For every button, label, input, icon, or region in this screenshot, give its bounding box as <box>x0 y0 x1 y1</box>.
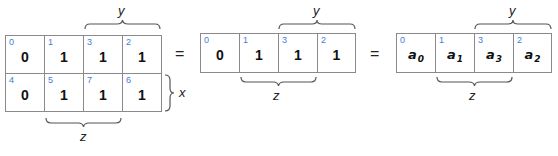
cell-value: 1 <box>318 47 355 63</box>
y-brace-icon <box>84 20 161 30</box>
cell-index: 0 <box>400 35 405 45</box>
cell-index: 4 <box>9 75 14 85</box>
kmap-cell: 2 1 <box>122 35 162 74</box>
kmap-cell: 0 0 <box>5 35 45 74</box>
map-cell: 3 1 <box>278 33 318 73</box>
y-brace-icon <box>278 20 356 30</box>
cell-index: 5 <box>48 75 53 85</box>
z-label: z <box>273 88 280 103</box>
cell-index: 2 <box>321 35 326 45</box>
y-brace-icon <box>474 20 552 30</box>
cell-value: 1 <box>45 49 83 65</box>
cell-value: 1 <box>84 87 122 103</box>
cell-variable: a1 <box>436 47 474 64</box>
cell-index: 3 <box>478 35 483 45</box>
equals-sign: = <box>175 45 184 63</box>
y-label: y <box>313 3 320 18</box>
map-cell: 3 a3 <box>474 33 514 73</box>
cell-value: 0 <box>201 47 239 63</box>
map-cell: 0 0 <box>200 33 240 73</box>
cell-value: 0 <box>6 49 44 65</box>
z-brace-icon <box>45 118 122 128</box>
y-label: y <box>118 3 125 18</box>
x-brace-icon <box>165 74 175 112</box>
cell-index: 1 <box>243 35 248 45</box>
cell-index: 6 <box>126 75 131 85</box>
kmap-cell: 6 1 <box>122 73 162 112</box>
cell-variable: a3 <box>475 47 513 64</box>
map-cell: 1 1 <box>239 33 279 73</box>
z-label: z <box>469 88 476 103</box>
kmap-cell: 1 1 <box>44 35 84 74</box>
cell-index: 2 <box>126 37 131 47</box>
z-brace-icon <box>436 77 513 87</box>
kmap-cell: 3 1 <box>83 35 123 74</box>
map-cell: 2 a2 <box>513 33 552 73</box>
cell-value: 1 <box>240 47 278 63</box>
cell-index: 2 <box>517 35 522 45</box>
x-label: x <box>179 85 186 100</box>
kmap-cell: 4 0 <box>5 73 45 112</box>
map-cell: 1 a1 <box>435 33 475 73</box>
map-cell: 2 1 <box>317 33 356 73</box>
cell-value: 1 <box>279 47 317 63</box>
cell-value: 1 <box>45 87 83 103</box>
cell-value: 1 <box>84 49 122 65</box>
cell-index: 1 <box>48 37 53 47</box>
map-cell: 0 a0 <box>396 33 436 73</box>
cell-index: 3 <box>87 37 92 47</box>
cell-index: 1 <box>439 35 444 45</box>
cell-index: 7 <box>87 75 92 85</box>
cell-variable: a0 <box>397 47 435 64</box>
kmap-cell: 5 1 <box>44 73 84 112</box>
z-label: z <box>80 129 87 144</box>
y-label: y <box>509 3 516 18</box>
z-brace-icon <box>240 77 317 87</box>
cell-value: 0 <box>6 87 44 103</box>
kmap-cell: 7 1 <box>83 73 123 112</box>
cell-variable: a2 <box>514 47 551 64</box>
equals-sign: = <box>370 45 379 63</box>
cell-value: 1 <box>123 49 161 65</box>
cell-index: 0 <box>204 35 209 45</box>
cell-value: 1 <box>123 87 161 103</box>
cell-index: 0 <box>9 37 14 47</box>
cell-index: 3 <box>282 35 287 45</box>
